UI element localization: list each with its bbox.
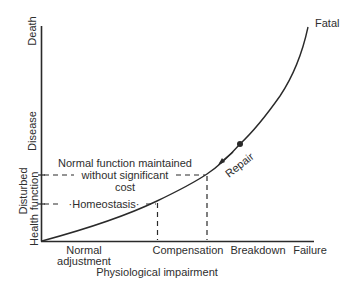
y-label-death: Death xyxy=(26,16,38,45)
x-label-failure: Failure xyxy=(293,244,327,256)
y-label-health: Health xyxy=(28,214,40,246)
y-label-disease: Disease xyxy=(26,111,38,151)
repair-label: Repair xyxy=(223,150,256,180)
normal-function-line2: without significant xyxy=(81,169,169,181)
x-axis-title: Physiological impairment xyxy=(96,266,218,278)
homeostasis-label: ·Homeostasis· xyxy=(69,198,140,210)
fatal-label: Fatal xyxy=(315,17,339,29)
y-label-function: function xyxy=(28,172,40,211)
x-label-breakdown: Breakdown xyxy=(230,244,285,256)
impairment-diagram: Repair Fatal Normal function maintained … xyxy=(0,0,344,294)
normal-function-line1: Normal function maintained xyxy=(58,157,192,169)
curve-point-dot xyxy=(237,141,243,147)
x-label-compensation: Compensation xyxy=(153,244,224,256)
normal-function-line3: cost xyxy=(115,181,135,193)
